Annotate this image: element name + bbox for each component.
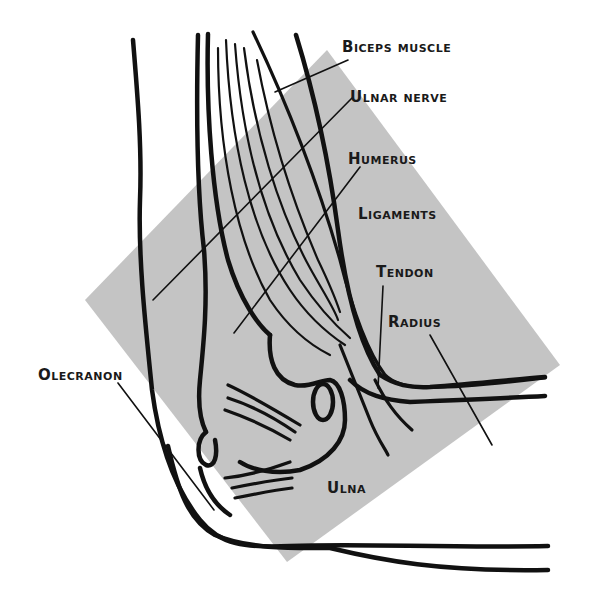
label-tendon: Tendon — [376, 265, 434, 280]
label-olecranon: Olecranon — [38, 368, 123, 383]
label-ligaments: Ligaments — [358, 207, 437, 222]
label-humerus: Humerus — [348, 152, 417, 167]
elbow-anatomy-diagram — [0, 0, 594, 612]
label-ulna: Ulna — [327, 481, 366, 496]
highlight-region — [85, 50, 560, 562]
label-ulnar-nerve: Ulnar nerve — [350, 90, 447, 105]
label-radius: Radius — [388, 315, 441, 330]
label-biceps-muscle: Biceps muscle — [342, 40, 451, 55]
